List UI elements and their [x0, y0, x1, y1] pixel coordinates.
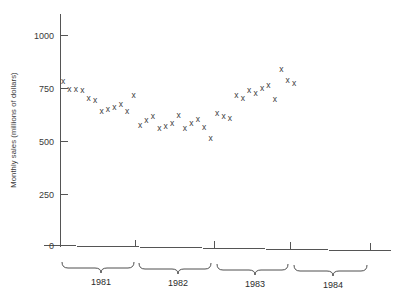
year-brackets	[62, 262, 367, 276]
data-point-marker: x	[80, 85, 85, 95]
data-point-marker: x	[170, 118, 175, 128]
data-point-marker: x	[253, 88, 258, 98]
data-point-marker: x	[292, 78, 297, 88]
year-label-1981: 1981	[91, 277, 111, 287]
bracket-1984	[294, 265, 367, 276]
data-point-marker: x	[196, 114, 201, 124]
data-point-marker: x	[221, 111, 226, 121]
data-point-marker: x	[151, 111, 156, 121]
chart-figure: 1000 750 500 250 0 Monthly sales (millio…	[0, 0, 393, 293]
data-point-marker: x	[164, 121, 169, 131]
data-point-marker: x	[74, 84, 79, 94]
year-label-1983: 1983	[245, 279, 265, 289]
data-point-marker: x	[209, 133, 214, 143]
data-point-marker: x	[87, 93, 92, 103]
y-tick-label-1000: 1000	[34, 31, 54, 41]
data-point-marker: x	[119, 99, 124, 109]
x-axis-line	[44, 246, 391, 252]
data-point-marker: x	[131, 90, 136, 100]
data-point-marker: x	[234, 90, 239, 100]
data-point-marker: x	[112, 102, 117, 112]
data-point-marker: x	[279, 64, 284, 74]
y-tick-label-250: 250	[39, 190, 54, 200]
data-point-group: xxxxxxxxxxxxxxxxxxxxxxxxxxxxxxxxxxxxx	[61, 64, 297, 143]
data-point-marker: x	[215, 108, 220, 118]
data-point-marker: x	[106, 104, 111, 114]
data-point-marker: x	[157, 123, 162, 133]
data-point-marker: x	[125, 106, 130, 116]
data-point-marker: x	[266, 80, 271, 90]
data-point-marker: x	[260, 83, 265, 93]
data-point-marker: x	[67, 84, 72, 94]
data-point-marker: x	[93, 95, 98, 105]
year-label-1982: 1982	[168, 278, 188, 288]
data-point-marker: x	[247, 85, 252, 95]
data-point-marker: x	[241, 93, 246, 103]
bracket-1981	[62, 262, 134, 273]
data-point-marker: x	[273, 94, 278, 104]
y-tick-label-500: 500	[39, 137, 54, 147]
bracket-1983	[217, 264, 288, 275]
scatter-plot-canvas: 1000 750 500 250 0 Monthly sales (millio…	[0, 0, 393, 293]
y-tick-label-750: 750	[39, 84, 54, 94]
y-axis-title: Monthly sales (millions of dollars)	[9, 72, 18, 188]
data-point-marker: x	[189, 118, 194, 128]
data-point-marker: x	[286, 75, 291, 85]
data-point-marker: x	[183, 123, 188, 133]
data-point-marker: x	[202, 122, 207, 132]
data-point-marker: x	[138, 120, 143, 130]
data-point-marker: x	[228, 113, 233, 123]
data-point-marker: x	[61, 76, 66, 86]
y-tick-label-0: 0	[49, 241, 54, 251]
year-label-1984: 1984	[323, 280, 343, 290]
data-point-marker: x	[176, 110, 181, 120]
data-point-marker: x	[144, 115, 149, 125]
data-point-marker: x	[99, 106, 104, 116]
bracket-1982	[139, 263, 211, 274]
